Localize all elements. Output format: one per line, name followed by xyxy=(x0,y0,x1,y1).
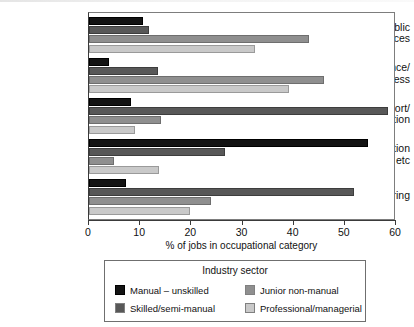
bar xyxy=(89,98,131,106)
bar xyxy=(89,107,388,115)
bar xyxy=(89,207,190,215)
bar xyxy=(89,45,255,53)
legend-item: Manual – unskilled xyxy=(115,285,209,296)
bar xyxy=(89,17,143,25)
bar xyxy=(89,157,114,165)
x-axis-tick-label: 20 xyxy=(184,226,196,238)
legend-item-label: Professional/managerial xyxy=(260,303,362,314)
bar xyxy=(89,188,354,196)
x-axis-tick-label: 60 xyxy=(389,226,401,238)
x-axis-tick xyxy=(395,220,396,225)
x-axis-tick xyxy=(139,220,140,225)
legend-item-label: Junior non-manual xyxy=(260,285,339,296)
legend-swatch-icon xyxy=(115,303,125,313)
x-axis-tick-label: 0 xyxy=(85,226,91,238)
bar xyxy=(89,126,135,134)
bar xyxy=(89,67,158,75)
bar-group xyxy=(89,58,394,95)
x-axis-tick-label: 40 xyxy=(287,226,299,238)
bar xyxy=(89,76,324,84)
x-axis-tick xyxy=(344,220,345,225)
x-axis-tick xyxy=(88,220,89,225)
legend-item-label: Skilled/semi-manual xyxy=(130,303,215,314)
x-axis-tick xyxy=(190,220,191,225)
legend-item: Professional/managerial xyxy=(245,303,362,314)
x-axis-tick-label: 50 xyxy=(338,226,350,238)
legend-swatch-icon xyxy=(115,285,125,295)
legend-item-label: Manual – unskilled xyxy=(130,285,209,296)
legend-title: Industry sector xyxy=(105,265,365,276)
bar-chart: PublicservicesFinance/businessTransport/… xyxy=(0,0,414,327)
bar xyxy=(89,197,211,205)
bar xyxy=(89,85,289,93)
bar-group xyxy=(89,98,394,135)
bar xyxy=(89,116,161,124)
x-axis-tick-label: 30 xyxy=(236,226,248,238)
legend-swatch-icon xyxy=(245,285,255,295)
bar xyxy=(89,58,109,66)
bar-group xyxy=(89,179,394,216)
bar xyxy=(89,139,368,147)
legend-swatch-icon xyxy=(245,303,255,313)
bar xyxy=(89,179,126,187)
plot-area xyxy=(88,12,395,220)
bar xyxy=(89,35,309,43)
legend: Industry sector Manual – unskilledSkille… xyxy=(104,260,366,322)
bar-group xyxy=(89,17,394,54)
legend-item: Junior non-manual xyxy=(245,285,339,296)
bar xyxy=(89,26,149,34)
legend-item: Skilled/semi-manual xyxy=(115,303,215,314)
bar xyxy=(89,166,159,174)
bar xyxy=(89,148,225,156)
bar-group xyxy=(89,139,394,176)
x-axis-title: % of jobs in occupational category xyxy=(88,240,395,251)
x-axis-tick xyxy=(242,220,243,225)
x-axis-tick-label: 10 xyxy=(133,226,145,238)
x-axis-tick xyxy=(293,220,294,225)
page-edge-artifact xyxy=(0,0,414,2)
